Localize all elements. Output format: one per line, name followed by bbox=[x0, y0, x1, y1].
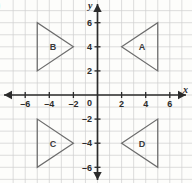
coordinate-plane-figure: ) –6–4–20246642–2–4–6 xy ABCD bbox=[0, 0, 192, 183]
axis-name-labels: xy bbox=[87, 0, 188, 95]
x-axis-tick-label: –4 bbox=[44, 99, 54, 109]
x-axis-tick-label: 6 bbox=[167, 99, 172, 109]
triangle-label-d: D bbox=[139, 139, 146, 149]
grid-lines bbox=[0, 0, 192, 183]
axes bbox=[4, 4, 186, 180]
y-axis-tick-label: –4 bbox=[82, 138, 92, 148]
origin-tick-label: 0 bbox=[87, 98, 92, 108]
y-axis-tick-label: 4 bbox=[87, 42, 92, 52]
triangle-label-b: B bbox=[50, 42, 57, 52]
y-axis-tick-label: 2 bbox=[87, 66, 92, 76]
triangle-label-a: A bbox=[139, 42, 146, 52]
y-axis-arrow-down bbox=[93, 172, 101, 180]
coordinate-grid-svg: –6–4–20246642–2–4–6 xy ABCD bbox=[0, 0, 192, 183]
y-axis-tick-label: –2 bbox=[82, 114, 92, 124]
x-axis-tick-label: 4 bbox=[143, 99, 148, 109]
y-axis-arrow-up bbox=[93, 4, 101, 12]
y-axis-tick-label: –6 bbox=[82, 163, 92, 173]
y-axis-name-label: y bbox=[87, 0, 93, 11]
x-axis-arrow-left bbox=[4, 91, 12, 99]
y-axis-tick-label: 6 bbox=[87, 18, 92, 28]
x-axis-tick-label: –6 bbox=[20, 99, 30, 109]
x-axis-tick-label: –2 bbox=[68, 99, 78, 109]
x-axis-tick-label: 2 bbox=[119, 99, 124, 109]
x-axis-name-label: x bbox=[182, 84, 188, 95]
triangle-label-c: C bbox=[50, 139, 57, 149]
